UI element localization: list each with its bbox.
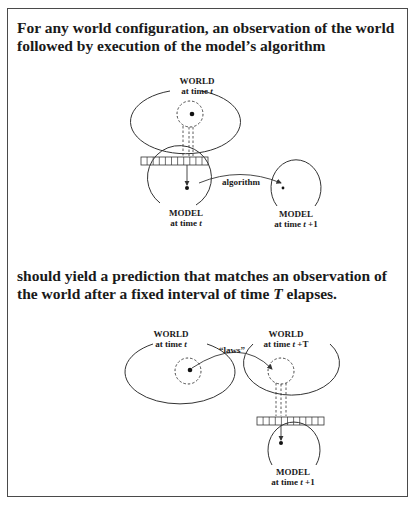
world-ellipse <box>131 91 241 154</box>
model-time: at time t +1 <box>271 477 315 487</box>
world-right-title: WORLD <box>268 329 304 339</box>
model-left-circle <box>147 146 211 205</box>
model-left-title: MODEL <box>169 208 203 218</box>
world-left-title: WORLD <box>153 329 189 339</box>
world-left-state-dot <box>188 368 193 373</box>
model-circle <box>268 422 320 465</box>
top-diagram: WORLD at time t MODEL at time t <box>131 76 322 229</box>
model-right-circle <box>271 160 321 206</box>
observation-register-bottom <box>257 417 324 425</box>
model-right-title: MODEL <box>279 209 313 219</box>
model-title: MODEL <box>276 467 310 477</box>
algorithm-label: algorithm <box>222 177 260 187</box>
model-right-time: at time t +1 <box>274 219 318 229</box>
diagram-svg: WORLD at time t MODEL at time t <box>0 0 417 506</box>
observation-register <box>141 157 208 165</box>
world-state-dot <box>190 112 195 117</box>
bottom-diagram: WORLD at time t “laws” WORLD at time t +… <box>125 329 340 487</box>
world-title: WORLD <box>179 76 215 86</box>
laws-label: “laws” <box>219 345 246 355</box>
world-time: at time t <box>181 86 213 96</box>
model-left-time: at time t <box>170 218 202 228</box>
world-left-time: at time t <box>155 339 187 349</box>
world-right-ellipse <box>244 344 340 395</box>
world-right-time: at time t +T <box>264 339 309 349</box>
